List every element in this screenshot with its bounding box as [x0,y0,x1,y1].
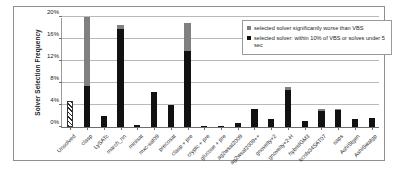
chart-frame: Solver Selection Frequency 0%4%8%12%16%2… [13,6,385,161]
legend-swatch-black-icon [247,36,251,40]
bar [168,105,174,127]
chart-legend: selected solver significantly worse than… [242,20,392,55]
y-tick-mark [59,16,62,17]
bar [352,119,358,127]
x-tick-mark [70,127,71,130]
bar [67,101,73,127]
x-tick-mark [338,127,339,130]
bar [335,109,341,127]
bar-segment-black [117,29,123,127]
gridline [62,16,379,17]
bar [117,25,123,127]
x-tick-mark [238,127,239,130]
bar [369,118,375,127]
bar-segment-gray [117,25,123,29]
bar [268,119,274,127]
gridline [62,82,379,83]
bar-segment-black [101,116,107,127]
y-tick-label: 4% [50,97,59,103]
x-tick-mark [271,127,272,130]
bar-segment-black [84,86,90,127]
y-tick-mark [59,60,62,61]
bar-segment-gray [335,109,341,110]
bar-segment-gray [285,87,291,90]
bar-segment-gray [184,23,190,52]
x-tick-mark [355,127,356,130]
bar-segment-black [369,118,375,127]
x-tick-label: saps [332,133,345,146]
bar-segment-black [335,110,341,127]
x-tick-mark [221,127,222,130]
bar [251,109,257,127]
x-tick-mark [254,127,255,130]
x-tick-mark [372,127,373,130]
y-tick-mark [59,126,62,127]
x-tick-mark [288,127,289,130]
bar [101,116,107,127]
legend-item: selected solver significantly worse than… [247,25,387,32]
legend-item: selected solver: within 10% of VBS or so… [247,35,387,49]
bar [151,92,157,127]
x-tick-mark [121,127,122,130]
bar-segment-black [268,119,274,127]
x-tick-mark [171,127,172,130]
bar-segment-black [184,51,190,127]
bar-segment-black [318,111,324,128]
bar-segment-gray [84,17,90,86]
y-tick-label: 12% [47,53,59,59]
x-tick-mark [305,127,306,130]
bar-segment-black [168,105,174,127]
bar [84,17,90,127]
bar-segment-black [352,119,358,127]
x-tick-mark [137,127,138,130]
x-tick-label: Unsolved [56,133,77,154]
gridline [62,104,379,105]
bar [318,109,324,127]
bar [184,23,190,128]
x-tick-mark [188,127,189,130]
y-tick-label: 8% [50,75,59,81]
bar-segment-black [151,92,157,127]
gridline [62,60,379,61]
legend-swatch-gray-icon [247,26,251,30]
legend-label: selected solver significantly worse than… [254,25,363,32]
y-tick-label: 16% [47,31,59,37]
x-tick-mark [154,127,155,130]
x-tick-mark [321,127,322,130]
chart-figure: Solver Selection Frequency 0%4%8%12%16%2… [0,0,401,175]
y-tick-label: 20% [47,9,59,15]
y-tick-mark [59,82,62,83]
x-tick-label: clasp [80,133,93,146]
x-tick-mark [204,127,205,130]
x-tick-mark [87,127,88,130]
bar-segment-black [251,109,257,127]
y-tick-mark [59,104,62,105]
bar-segment-black [285,90,291,127]
y-tick-label: 0% [50,119,59,125]
y-tick-mark [59,38,62,39]
x-tick-mark [104,127,105,130]
bar [285,87,291,127]
bar-segment-hatched [67,101,73,127]
y-axis-title: Solver Selection Frequency [34,14,41,132]
legend-label: selected solver: within 10% of VBS or so… [254,35,387,49]
bar-segment-gray [318,109,324,111]
